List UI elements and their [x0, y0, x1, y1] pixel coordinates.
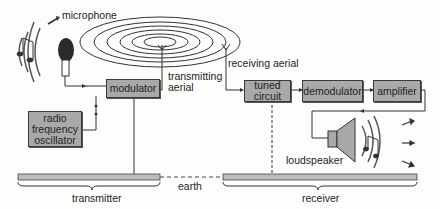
modulator-label: modulator	[110, 83, 157, 94]
label-loudspeaker: loudspeaker	[286, 155, 343, 166]
label-earth: earth	[178, 181, 202, 192]
label-receiver: receiver	[302, 193, 339, 204]
tuned-circuit-block: tuned circuit	[244, 80, 291, 102]
microphone-icon	[58, 38, 106, 88]
diagram-lines	[0, 0, 440, 209]
demodulator-block: demodulator	[302, 80, 363, 102]
label-microphone: microphone	[62, 10, 117, 21]
label-transmitter: transmitter	[72, 193, 122, 204]
rf-osc-label-3: oscillator	[34, 135, 75, 146]
radio-diagram: microphone transmitting aerial receiving…	[0, 0, 440, 209]
rf-osc-label-1: radio	[43, 113, 66, 124]
amplifier-label: amplifier	[377, 86, 417, 97]
label-transmitting-aerial-2: aerial	[168, 82, 194, 93]
rf-oscillator-block: radio frequency oscillator	[28, 111, 82, 147]
demodulator-label: demodulator	[303, 86, 361, 97]
label-receiving-aerial: receiving aerial	[228, 58, 299, 69]
radio-waves-icon	[80, 17, 240, 67]
tuned-label-2: circuit	[254, 91, 281, 102]
modulator-block: modulator	[106, 79, 160, 98]
rf-osc-label-2: frequency	[32, 124, 78, 135]
amplifier-block: amplifier	[373, 80, 421, 102]
